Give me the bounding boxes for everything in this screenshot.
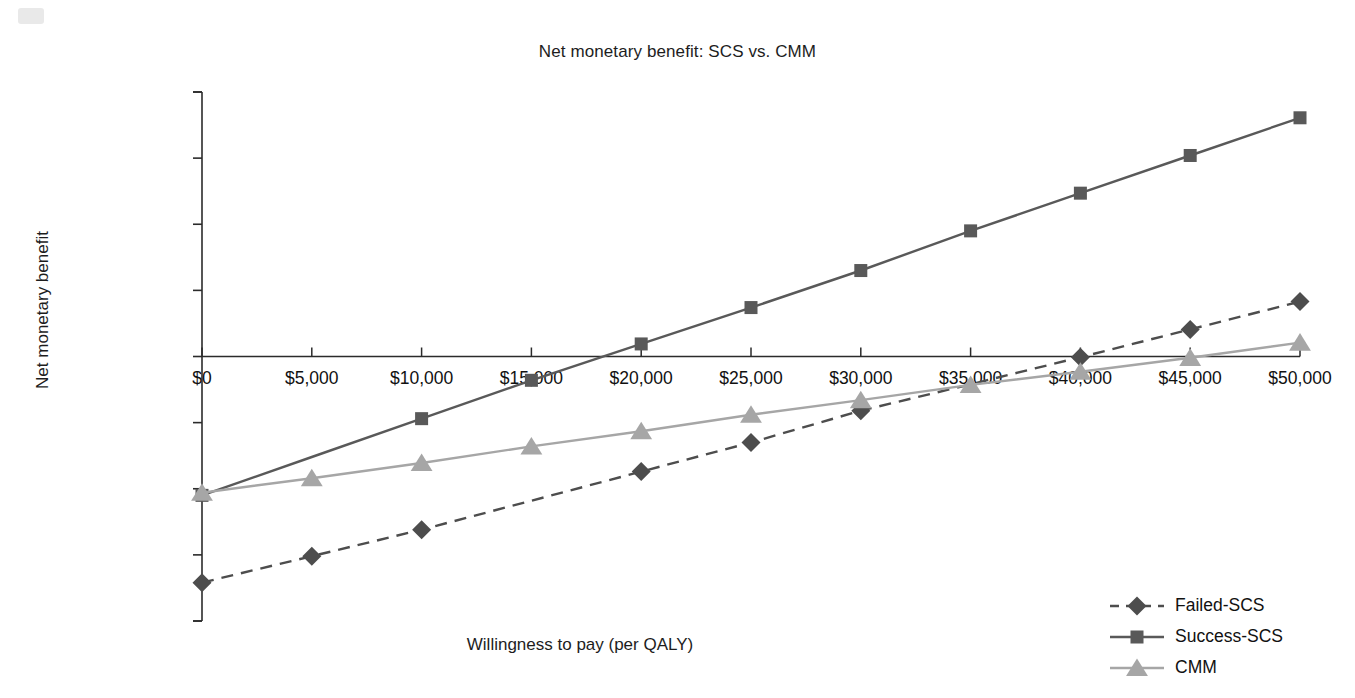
data-point-marker xyxy=(635,337,648,350)
data-point-marker xyxy=(1184,149,1197,162)
data-point-marker xyxy=(854,264,867,277)
series-failed-scs xyxy=(193,292,1310,592)
data-point-marker xyxy=(1074,187,1087,200)
data-point-marker xyxy=(1181,320,1200,339)
legend-key-square-icon xyxy=(1108,626,1166,648)
data-point-marker xyxy=(632,462,651,481)
legend-item-cmm[interactable]: CMM xyxy=(1108,652,1283,683)
chart-figure: Net monetary benefit: SCS vs. CMM Net mo… xyxy=(0,0,1355,698)
data-point-marker xyxy=(1289,333,1311,351)
data-point-marker xyxy=(1291,292,1310,311)
legend-key-diamond-icon xyxy=(1108,595,1166,617)
legend-symbol xyxy=(1108,595,1166,617)
data-point-marker xyxy=(964,224,977,237)
data-point-marker xyxy=(1128,596,1147,615)
legend-symbol xyxy=(1108,657,1166,679)
legend-item-failed-scs[interactable]: Failed-SCS xyxy=(1108,590,1283,621)
data-point-marker xyxy=(1294,111,1307,124)
legend-label: CMM xyxy=(1175,657,1217,678)
data-point-marker xyxy=(415,412,428,425)
data-point-marker xyxy=(412,520,431,539)
data-point-marker xyxy=(745,301,758,314)
data-point-marker xyxy=(302,547,321,566)
series-cmm xyxy=(191,333,1311,501)
data-point-marker xyxy=(525,374,538,387)
legend-label: Success-SCS xyxy=(1175,626,1283,647)
legend-item-success-scs[interactable]: Success-SCS xyxy=(1108,621,1283,652)
legend-label: Failed-SCS xyxy=(1175,595,1264,616)
data-point-marker xyxy=(193,573,212,592)
data-point-marker xyxy=(1131,630,1144,643)
legend-key-triangle-icon xyxy=(1108,657,1166,679)
data-point-marker xyxy=(742,433,761,452)
legend-symbol xyxy=(1108,626,1166,648)
chart-legend: Failed-SCSSuccess-SCSCMM xyxy=(1108,590,1283,683)
